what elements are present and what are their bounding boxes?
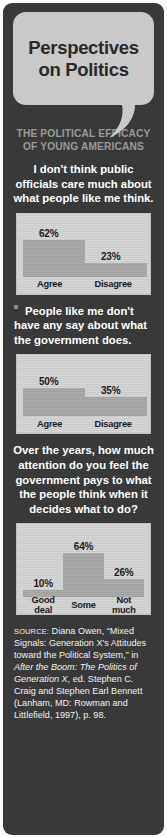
chart-3-value-good-deal: 10% (23, 578, 63, 589)
chart-1-axis: Agree Disagree (23, 278, 144, 291)
chart-3-axis-label-not-much: Not much (104, 595, 144, 615)
chart-2-bar-agree (23, 388, 85, 417)
chart-3-axis-label-some: Some (63, 600, 103, 610)
chart-1-axis-label-agree: Agree (23, 279, 87, 289)
question-2: People like me don't have any say about … (14, 304, 156, 348)
chart-2-bar-group-agree: 50% (23, 359, 85, 416)
chart-1-plot: 62% 23% (23, 218, 144, 277)
chart-1-bar-group-disagree: 23% (85, 218, 147, 277)
bullet-speck-icon (14, 305, 18, 309)
page-title-line2: on Politics (38, 59, 128, 81)
chart-2-plot: 50% 35% (23, 359, 144, 416)
chart-2-axis-label-disagree: Disagree (87, 419, 145, 429)
chart-2-bar-disagree (85, 397, 147, 417)
chart-3-bar-some (63, 553, 103, 597)
infographic-card: Perspectives on Politics The Political E… (3, 3, 164, 835)
chart-3-bar-group-good-deal: 10% (23, 528, 63, 597)
question-1: I don't think public officials care much… (12, 162, 155, 206)
chart-2-bars: 50% 35% (23, 359, 144, 416)
speech-bubble-tail-icon (91, 99, 137, 139)
question-3: Over the years, how much attention do yo… (12, 443, 155, 516)
page-title-line1: Perspectives (28, 37, 139, 59)
chart-1-bar-disagree (85, 263, 147, 277)
chart-2-value-agree: 50% (23, 376, 85, 387)
chart-1-axis-label-disagree: Disagree (87, 279, 145, 289)
chart-3-bar-group-some: 64% (63, 528, 103, 597)
chart-2-value-disagree: 35% (85, 385, 147, 396)
chart-1: 62% 23% Agree Disagree (16, 213, 151, 295)
source-citation: SOURCE: Diana Owen, “Mixed Signals: Gene… (14, 626, 154, 721)
question-2-text: People like me don't have any say about … (14, 305, 147, 346)
chart-2-axis-label-agree: Agree (23, 419, 87, 429)
chart-1-bar-group-agree: 62% (23, 218, 85, 277)
chart-2-bar-group-disagree: 35% (85, 359, 147, 416)
chart-2: 50% 35% Agree Disagree (16, 354, 151, 434)
chart-3-axis: Good deal Some Not much (23, 598, 144, 611)
chart-3-value-not-much: 26% (104, 567, 144, 578)
chart-3-value-some: 64% (63, 541, 103, 552)
chart-3: 10% 64% 26% Good deal Some Not much (16, 523, 151, 615)
chart-3-axis-label-good-deal: Good deal (23, 595, 63, 615)
source-label: SOURCE: (14, 627, 49, 636)
chart-1-bars: 62% 23% (23, 218, 144, 277)
title-bubble: Perspectives on Politics (13, 12, 154, 105)
chart-3-bar-group-not-much: 26% (104, 528, 144, 597)
chart-1-value-disagree: 23% (85, 251, 147, 262)
title-bubble-area: Perspectives on Politics (3, 3, 164, 121)
chart-2-axis: Agree Disagree (23, 417, 144, 430)
chart-1-bar-agree (23, 240, 85, 277)
chart-3-bars: 10% 64% 26% (23, 528, 144, 597)
chart-1-value-agree: 62% (23, 228, 85, 239)
chart-3-plot: 10% 64% 26% (23, 528, 144, 597)
